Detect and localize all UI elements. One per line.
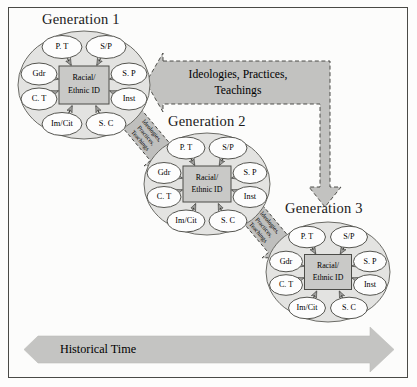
center-label-line1: Racial/ [317,261,340,270]
node-gdr-label: Gdr [158,168,171,177]
node-sp-right: S. P [233,163,267,184]
node-pt: P. T [289,226,326,248]
node-sp-top-label: S/P [100,42,112,51]
node-imcit: Im/Cit [289,297,326,319]
center-label-line2: Ethnic ID [68,86,100,95]
node-ct-label: C. T [279,280,293,289]
generation-3-cluster: Racial/ Ethnic ID P. T S/P Gdr S. P C. T [266,222,390,322]
historical-time-arrow: Historical Time [24,327,394,372]
center-box [59,66,109,104]
node-sp-top: S/P [209,137,247,159]
node-sc: S. C [86,113,126,136]
generation-1-title: Generation 1 [42,11,120,28]
generation-1-cluster: Racial/ Ethnic ID P. T S/P Gdr S. P C. T [18,31,150,139]
node-sc: S. C [209,210,247,232]
node-gdr: Gdr [270,251,303,272]
node-sp-top: S/P [86,36,126,59]
node-imcit-label: Im/Cit [51,119,74,128]
node-sc-label: S. C [221,216,236,225]
node-imcit: Im/Cit [42,113,82,136]
node-gdr: Gdr [147,163,181,184]
node-sc: S. C [331,297,368,319]
center-label-line2: Ethnic ID [192,185,223,194]
node-sc-label: S. C [342,303,356,312]
ideologies-arrow-line1: Ideologies, Practices, [189,68,288,81]
node-inst-label: Inst [364,280,377,289]
node-pt-label: P. T [56,42,69,51]
node-ct-label: C. T [157,192,171,201]
center-box [183,166,231,202]
node-inst: Inst [111,88,147,110]
figure-canvas: Historical Time Ideologies, Practices, T… [0,0,417,387]
node-pt-label: P. T [180,143,193,152]
node-sp-top: S/P [331,226,368,248]
node-imcit: Im/Cit [167,210,205,232]
node-inst: Inst [233,187,267,208]
node-inst-label: Inst [244,192,257,201]
diagram-svg: Historical Time Ideologies, Practices, T… [0,0,417,387]
node-sp-top-label: S/P [343,232,355,241]
center-label-line1: Racial/ [72,73,96,82]
center-label-line2: Ethnic ID [313,273,344,282]
node-inst-label: Inst [123,94,136,103]
node-gdr-label: Gdr [280,257,293,266]
node-ct-label: C. T [32,94,47,103]
historical-time-label: Historical Time [60,342,136,356]
node-sc-label: S. C [99,119,114,128]
node-pt: P. T [42,36,82,59]
node-gdr: Gdr [21,63,57,85]
generation-2-cluster: Racial/ Ethnic ID P. T S/P Gdr S. P C. T [144,133,270,235]
node-imcit-label: Im/Cit [296,303,318,312]
node-ct: C. T [270,275,303,296]
node-ct: C. T [21,88,57,110]
node-sp-right-label: S. P [363,257,377,266]
node-gdr-label: Gdr [32,69,45,78]
node-sp-right: S. P [354,251,387,272]
generation-3-title: Generation 3 [285,200,363,217]
node-pt: P. T [167,137,205,159]
node-sp-top-label: S/P [222,143,234,152]
node-ct: C. T [147,187,181,208]
node-inst: Inst [354,275,387,296]
node-sp-right-label: S. P [243,168,257,177]
node-sp-right-label: S. P [122,69,136,78]
node-sp-right: S. P [111,63,147,85]
node-imcit-label: Im/Cit [175,216,197,225]
node-pt-label: P. T [301,232,314,241]
center-label-line1: Racial/ [196,173,219,182]
ideologies-arrow-line2: Teachings [215,84,262,97]
generation-2-title: Generation 2 [168,113,246,130]
